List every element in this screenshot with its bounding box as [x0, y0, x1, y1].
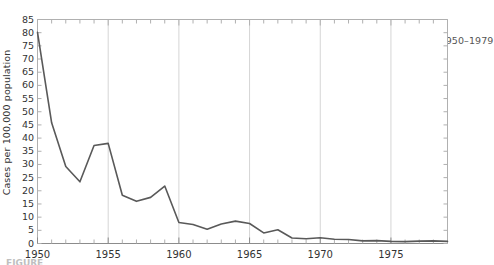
- x-tick-label: 1965: [237, 250, 262, 260]
- x-tick-label: 1960: [166, 250, 191, 260]
- x-tick-label: 1970: [308, 250, 333, 260]
- figure-caption: FIGURE: [6, 258, 43, 265]
- x-tick-label: 1975: [378, 250, 403, 260]
- x-tick-label: 1955: [95, 250, 120, 260]
